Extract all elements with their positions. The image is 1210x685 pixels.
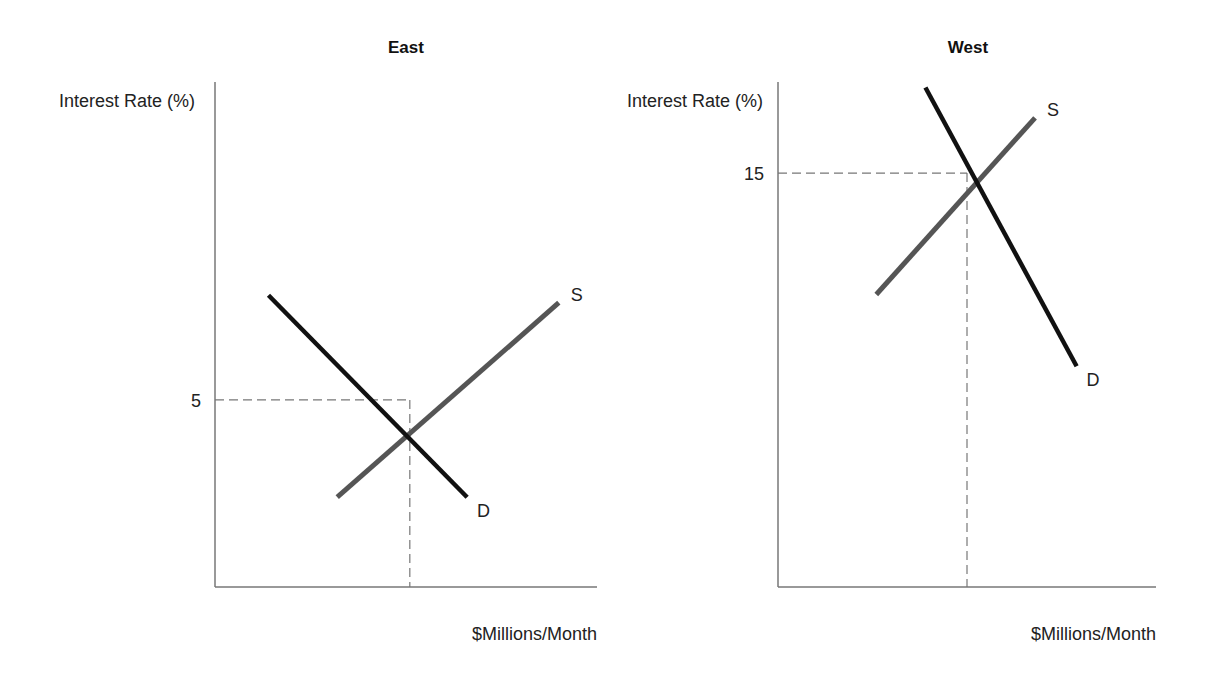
east-x-axis-label: $Millions/Month [472,624,597,644]
west-demand-curve-label: D [1087,370,1100,390]
west-y-axis-label: Interest Rate (%) [627,91,763,111]
east-chart: East Interest Rate (%) $Millions/Month 5… [59,38,597,644]
west-x-axis-label: $Millions/Month [1031,624,1156,644]
east-supply-curve-label: S [571,285,583,305]
west-y-tick-label: 15 [744,164,764,184]
west-chart: West Interest Rate (%) $Millions/Month 1… [627,38,1156,644]
supply-demand-figure: East Interest Rate (%) $Millions/Month 5… [0,0,1210,685]
east-y-axis-label: Interest Rate (%) [59,91,195,111]
east-demand-curve [268,295,467,497]
east-y-tick-label: 5 [191,391,201,411]
west-supply-curve-label: S [1047,100,1059,120]
east-marks: 5SD [191,285,583,587]
west-demand-curve [925,88,1076,367]
west-chart-title: West [948,38,989,57]
east-chart-title: East [388,38,424,57]
east-demand-curve-label: D [477,501,490,521]
west-marks: 15SD [744,88,1100,587]
